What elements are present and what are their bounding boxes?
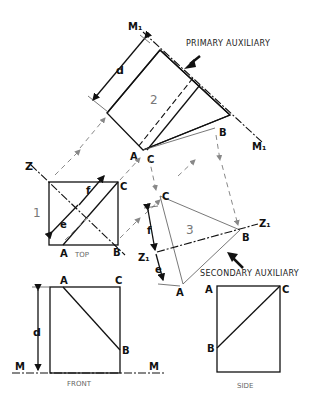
fold-label-z1-right: Z₁ <box>259 218 271 229</box>
side-view-label: SIDE <box>237 382 253 390</box>
view-number-2: 2 <box>150 93 158 107</box>
dimension-f-e-secondary <box>144 206 180 286</box>
side-point-a: A <box>205 284 213 295</box>
top-point-c: C <box>120 181 127 192</box>
secondary-view-direction-arrow <box>227 252 243 268</box>
dimension-label-d-primary: d <box>116 64 124 77</box>
top-point-b: B <box>113 247 121 258</box>
top-view <box>31 165 125 255</box>
secondary-point-a: A <box>176 287 184 298</box>
primary-point-a: A <box>130 151 138 162</box>
primary-view-direction-arrow <box>184 56 200 69</box>
fold-label-m1-top: M₁ <box>128 21 142 32</box>
top-view-label: TOP <box>74 251 89 259</box>
dimension-label-f-secondary: f <box>147 225 152 236</box>
top-point-a: A <box>60 248 68 259</box>
dimension-label-e-secondary: e <box>155 264 162 275</box>
secondary-auxiliary-label: SECONDARY AUXILIARY <box>200 269 299 278</box>
dimension-label-f-top: f <box>86 185 91 196</box>
fold-label-z1-left: Z₁ <box>138 252 150 263</box>
view-number-3: 3 <box>186 223 194 237</box>
primary-auxiliary-label: PRIMARY AUXILIARY <box>186 39 270 48</box>
fold-label-m-right: M <box>149 361 159 372</box>
side-point-b: B <box>207 343 215 354</box>
front-point-c: C <box>115 275 122 286</box>
primary-point-b: B <box>219 127 227 138</box>
front-point-b: B <box>122 345 130 356</box>
front-point-a: A <box>60 275 68 286</box>
dimension-label-d-front: d <box>33 326 41 339</box>
primary-auxiliary-view <box>107 50 230 150</box>
view-number-1: 1 <box>33 206 41 220</box>
side-view <box>217 286 280 372</box>
fold-label-z: Z <box>25 160 33 173</box>
auxiliary-view-diagram: M₁ M₁ 2 A C B d PRIMARY AUXILIARY Z 1 A … <box>0 0 321 404</box>
secondary-point-b: B <box>242 232 250 243</box>
fold-label-m1-bottom: M₁ <box>252 141 266 152</box>
fold-label-m-left: M <box>15 361 25 372</box>
primary-point-c: C <box>147 154 154 165</box>
front-view-label: FRONT <box>67 380 92 388</box>
secondary-point-c: C <box>162 191 169 202</box>
side-point-c: C <box>282 284 289 295</box>
dimension-label-e-top: e <box>60 219 67 230</box>
